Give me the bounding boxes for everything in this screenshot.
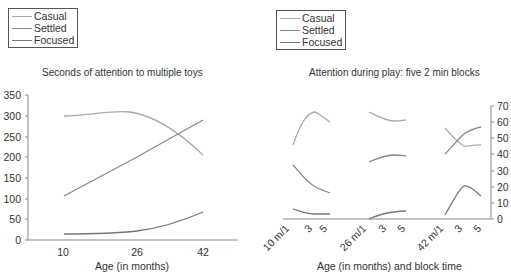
svg-text:30: 30 — [497, 165, 509, 177]
svg-text:0: 0 — [497, 213, 503, 225]
left-chart: 350300 250200 150100 500 102642 — [3, 89, 238, 258]
svg-text:3: 3 — [452, 222, 465, 235]
svg-text:50: 50 — [9, 213, 21, 225]
right-series-casual — [293, 112, 481, 146]
svg-text:0: 0 — [15, 234, 21, 246]
svg-text:100: 100 — [3, 193, 21, 205]
right-chart: 7060 5040 3020 100 10 m/1 3 5 26 m/1 3 5… — [260, 100, 509, 253]
left-y-tick-labels: 350300 250200 150100 500 — [3, 89, 21, 246]
svg-text:26 m/1: 26 m/1 — [337, 222, 368, 253]
charts-canvas: 350300 250200 150100 500 102642 7060 504… — [0, 0, 511, 277]
svg-text:150: 150 — [3, 172, 21, 184]
right-x-tick-labels: 10 m/1 3 5 26 m/1 3 5 42 m/1 3 5 — [260, 222, 483, 253]
left-series-focused — [64, 212, 203, 234]
svg-text:60: 60 — [497, 116, 509, 128]
svg-text:42 m/1: 42 m/1 — [414, 222, 445, 253]
left-x-tick-labels: 102642 — [57, 246, 209, 258]
svg-text:20: 20 — [497, 181, 509, 193]
svg-text:3: 3 — [376, 222, 389, 235]
svg-text:10: 10 — [57, 246, 69, 258]
svg-text:5: 5 — [395, 222, 408, 235]
svg-text:70: 70 — [497, 100, 509, 112]
right-series-focused — [293, 186, 481, 219]
left-series-casual — [64, 112, 203, 155]
svg-text:40: 40 — [497, 148, 509, 160]
left-series-settled — [64, 120, 203, 196]
svg-text:300: 300 — [3, 110, 21, 122]
svg-text:10 m/1: 10 m/1 — [260, 222, 291, 253]
svg-text:26: 26 — [131, 246, 143, 258]
svg-text:42: 42 — [197, 246, 209, 258]
svg-text:350: 350 — [3, 89, 21, 101]
svg-text:5: 5 — [471, 222, 484, 235]
svg-text:10: 10 — [497, 197, 509, 209]
svg-text:250: 250 — [3, 131, 21, 143]
right-y-tick-labels: 7060 5040 3020 100 — [497, 100, 509, 225]
svg-text:200: 200 — [3, 151, 21, 163]
svg-text:50: 50 — [497, 132, 509, 144]
svg-text:3: 3 — [302, 222, 315, 235]
svg-text:5: 5 — [317, 222, 330, 235]
